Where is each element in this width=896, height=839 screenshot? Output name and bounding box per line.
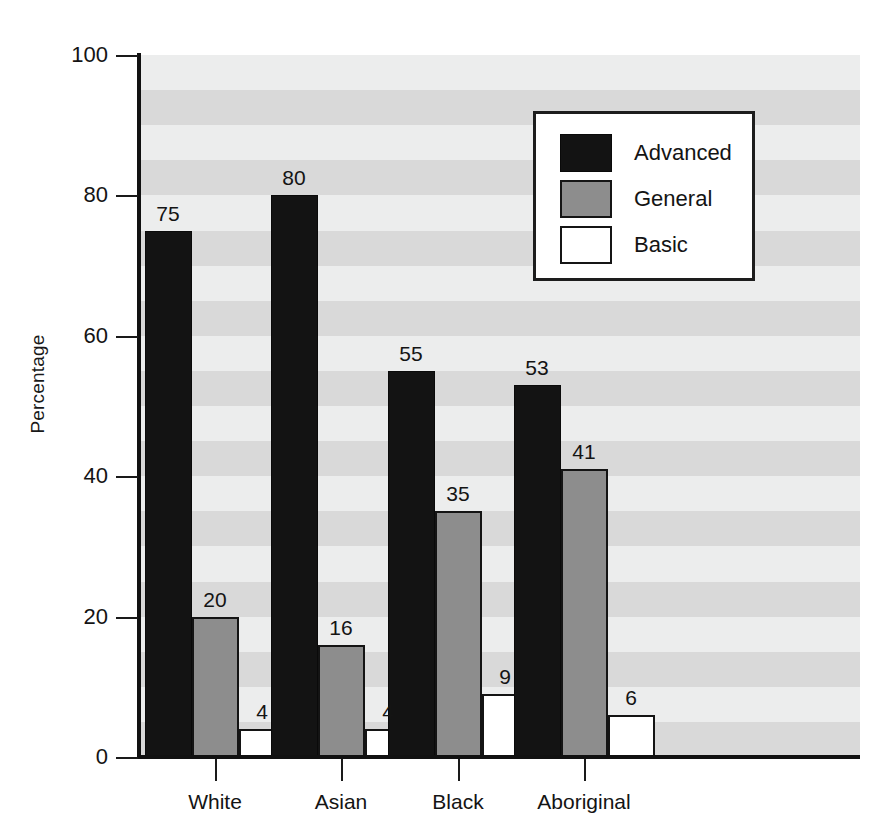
background-band bbox=[141, 55, 860, 90]
bar-value-label: 9 bbox=[445, 665, 565, 689]
legend-item-basic[interactable]: Basic bbox=[560, 224, 688, 266]
bar-aboriginal-basic bbox=[608, 715, 655, 757]
x-tick-mark bbox=[215, 759, 217, 781]
y-tick-label: 60 bbox=[38, 323, 108, 349]
legend-item-general[interactable]: General bbox=[560, 178, 712, 220]
y-tick-label: 100 bbox=[38, 42, 108, 68]
legend-item-advanced[interactable]: Advanced bbox=[560, 132, 732, 174]
bar-value-label: 41 bbox=[524, 440, 644, 464]
bar-value-label: 35 bbox=[398, 482, 518, 506]
y-tick-label: 0 bbox=[38, 744, 108, 770]
bar-value-label: 4 bbox=[202, 700, 322, 724]
y-tick-mark bbox=[116, 336, 138, 338]
y-tick-label: 20 bbox=[38, 604, 108, 630]
bar-value-label: 80 bbox=[234, 166, 354, 190]
y-tick-mark bbox=[116, 757, 138, 759]
bar-value-label: 6 bbox=[571, 686, 691, 710]
bar-chart: Percentage 020406080100 WhiteAsianBlackA… bbox=[0, 0, 896, 839]
legend-swatch-basic-icon bbox=[560, 226, 612, 264]
y-tick-mark bbox=[116, 617, 138, 619]
legend-label: General bbox=[634, 186, 712, 212]
bar-value-label: 75 bbox=[108, 202, 228, 226]
background-band bbox=[141, 546, 860, 581]
legend-swatch-general-icon bbox=[560, 180, 612, 218]
y-axis-title: Percentage bbox=[27, 284, 49, 484]
bar-value-label: 16 bbox=[281, 616, 401, 640]
bar-aboriginal-general bbox=[561, 469, 608, 757]
background-band bbox=[141, 301, 860, 336]
x-tick-mark bbox=[341, 759, 343, 781]
y-axis-line bbox=[137, 53, 141, 759]
bar-asian-advanced bbox=[271, 195, 318, 757]
x-tick-label-aboriginal: Aboriginal bbox=[474, 790, 694, 814]
background-band bbox=[141, 406, 860, 441]
y-tick-mark bbox=[116, 55, 138, 57]
x-tick-mark bbox=[458, 759, 460, 781]
y-tick-label: 40 bbox=[38, 463, 108, 489]
legend-swatch-advanced-icon bbox=[560, 134, 612, 172]
bar-value-label: 53 bbox=[477, 356, 597, 380]
background-band bbox=[141, 617, 860, 652]
y-tick-mark bbox=[116, 195, 138, 197]
background-band bbox=[141, 511, 860, 546]
legend-label: Basic bbox=[634, 232, 688, 258]
y-tick-mark bbox=[116, 476, 138, 478]
y-tick-label: 80 bbox=[38, 182, 108, 208]
background-band bbox=[141, 441, 860, 476]
legend: AdvancedGeneralBasic bbox=[533, 111, 755, 281]
x-tick-mark bbox=[584, 759, 586, 781]
x-axis-line bbox=[137, 755, 860, 759]
bar-value-label: 20 bbox=[155, 588, 275, 612]
bar-value-label: 55 bbox=[351, 342, 471, 366]
legend-label: Advanced bbox=[634, 140, 732, 166]
bar-white-general bbox=[192, 617, 239, 757]
bar-value-label: 4 bbox=[328, 700, 448, 724]
bar-white-advanced bbox=[145, 231, 192, 758]
